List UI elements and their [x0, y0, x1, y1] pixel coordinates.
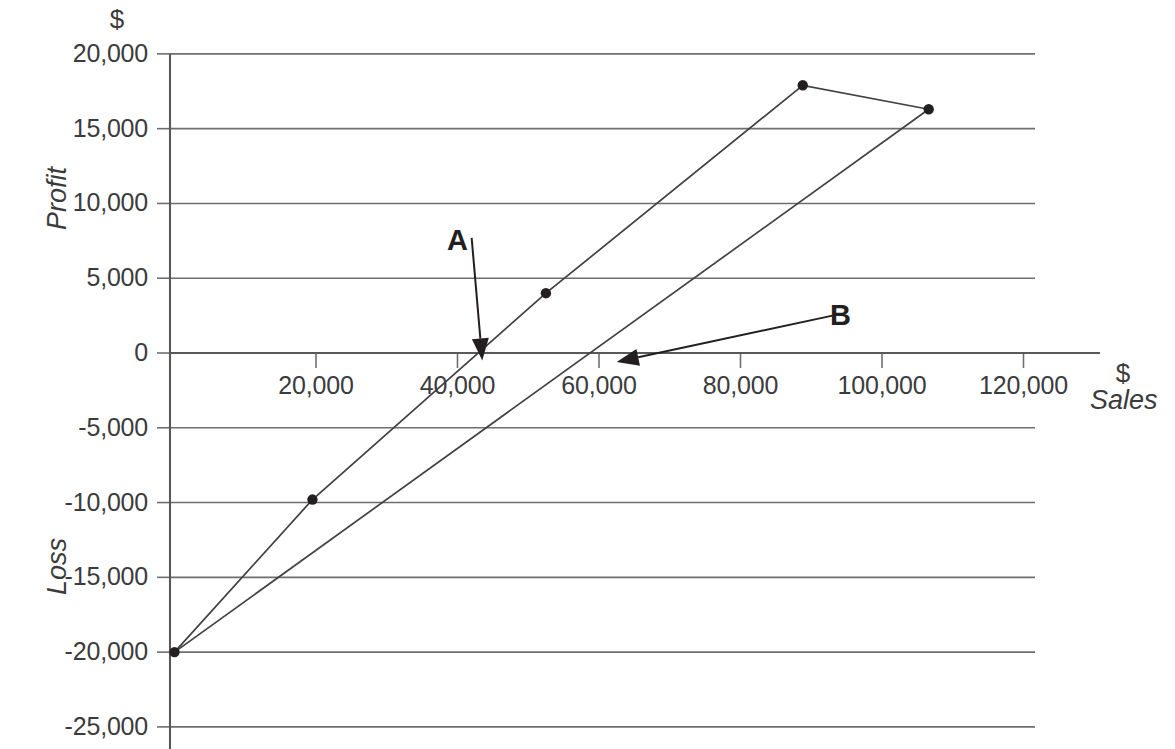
data-point: [307, 494, 317, 504]
y-tick-label: 0: [0, 338, 148, 367]
y-tick-label: -20,000: [0, 637, 148, 666]
x-tick-label: 120,000: [934, 371, 1114, 400]
annotation-arrows: [472, 238, 833, 366]
series-line-a: [175, 85, 929, 652]
y-tick-label: 20,000: [0, 39, 148, 68]
x-axis-ticks: [316, 353, 1024, 368]
axis-lines: [170, 54, 1100, 749]
data-markers: [169, 80, 934, 657]
y-tick-label: -15,000: [0, 562, 148, 591]
data-point: [541, 288, 551, 298]
y-tick-label: -5,000: [0, 413, 148, 442]
chart-container: $ Profit Loss $ Sales A B 20,00015,00010…: [0, 0, 1175, 749]
data-point: [169, 647, 179, 657]
annotation-arrow-shaft-a: [472, 238, 481, 339]
data-series: [175, 85, 929, 652]
y-tick-label: 5,000: [0, 263, 148, 292]
data-point: [798, 80, 808, 90]
data-point: [923, 104, 933, 114]
y-tick-label: -25,000: [0, 712, 148, 741]
y-tick-label: 10,000: [0, 188, 148, 217]
y-tick-label: -10,000: [0, 488, 148, 517]
y-tick-label: 15,000: [0, 114, 148, 143]
annotation-arrow-shaft-b: [638, 316, 832, 358]
annotation-arrow-head-b: [617, 349, 640, 366]
